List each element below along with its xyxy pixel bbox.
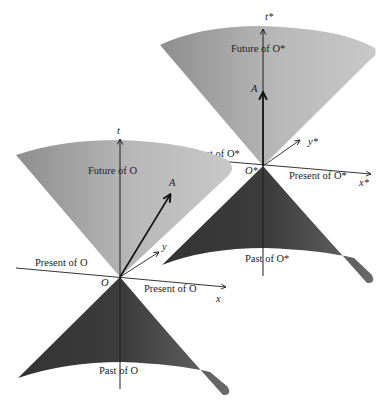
t-star-label: t* xyxy=(265,11,274,22)
right-frame: t* Future of O* A y* Present of O* O* Pr… xyxy=(160,11,376,283)
x-label: x xyxy=(215,293,221,304)
past-label-right: Past of O* xyxy=(245,253,289,264)
past-label-left: Past of O xyxy=(99,365,139,376)
left-frame: t Future of O A y Present of O O Present… xyxy=(16,125,232,395)
past-cone-left xyxy=(18,277,229,395)
y-label: y xyxy=(161,241,167,252)
observer-label-right: O* xyxy=(245,165,259,176)
y-star-label: y* xyxy=(307,136,319,147)
present-left-label-left: Present of O xyxy=(35,257,88,268)
future-label-right: Future of O* xyxy=(231,43,285,54)
x-star-label: x* xyxy=(358,177,370,188)
event-a-label-left: A xyxy=(168,177,176,188)
future-label-left: Future of O xyxy=(88,165,137,176)
event-a-label-right: A xyxy=(250,83,258,94)
observer-label-left: O xyxy=(101,277,109,288)
present-right-label-left: Present of O xyxy=(144,283,197,294)
t-label: t xyxy=(117,125,121,136)
present-right-label-right: Present of O* xyxy=(289,170,347,181)
light-cone-diagram: t* Future of O* A y* Present of O* O* Pr… xyxy=(0,0,392,406)
